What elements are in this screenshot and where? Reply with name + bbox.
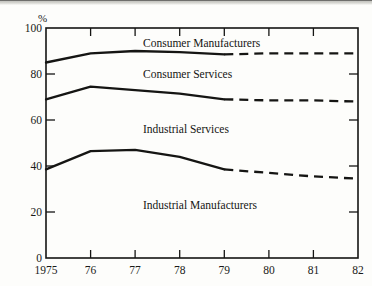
x-axis-ticks	[91, 250, 314, 258]
chart-figure: % 0 20 40 60 80 100	[0, 0, 372, 286]
series-line-solid-1	[46, 87, 224, 100]
y-tick-label-100: 100	[25, 22, 43, 34]
y-tick-label-20: 20	[31, 206, 43, 218]
x-axis-tick-labels: 1975 76 77 78 79 80 81 82	[35, 264, 365, 276]
series-line-dashed-2	[224, 169, 358, 178]
x-tick-label-82: 82	[352, 264, 364, 276]
band-label-consumer-manufacturers: Consumer Manufacturers	[143, 37, 261, 49]
series-line-dashed-0	[224, 53, 358, 54]
series-line-solid-2	[46, 150, 224, 170]
band-label-industrial-services: Industrial Services	[143, 123, 229, 135]
series-line-dashed-1	[224, 99, 358, 101]
y-tick-label-80: 80	[31, 68, 43, 80]
x-tick-label-76: 76	[85, 264, 97, 276]
x-tick-label-81: 81	[308, 264, 320, 276]
y-tick-label-60: 60	[31, 114, 43, 126]
x-tick-label-1975: 1975	[35, 264, 58, 276]
plot-frame	[46, 28, 358, 258]
series-line-solid-0	[46, 51, 224, 63]
y-tick-label-0: 0	[36, 252, 42, 264]
y-axis-tick-labels: 0 20 40 60 80 100	[25, 22, 43, 264]
y-tick-label-40: 40	[31, 160, 43, 172]
chart-plot-area: 0 20 40 60 80 100	[0, 0, 372, 286]
band-label-industrial-manufacturers: Industrial Manufacturers	[143, 199, 258, 211]
top-axis-ticks	[91, 28, 314, 36]
right-axis-ticks	[349, 74, 358, 212]
x-tick-label-77: 77	[129, 264, 141, 276]
band-label-consumer-services: Consumer Services	[143, 68, 233, 80]
x-tick-label-78: 78	[174, 264, 186, 276]
x-tick-label-80: 80	[263, 264, 275, 276]
x-tick-label-79: 79	[219, 264, 231, 276]
y-axis-ticks	[46, 74, 55, 212]
